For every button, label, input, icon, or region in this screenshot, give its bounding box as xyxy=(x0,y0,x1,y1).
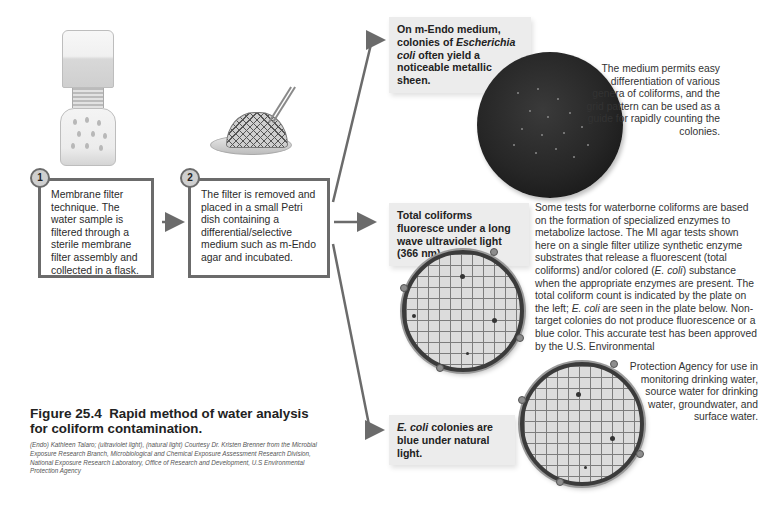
figure-page: Membrane filter technique. The water sam… xyxy=(0,0,762,512)
mi-agar-description: Some tests for waterborne coliforms are … xyxy=(535,202,757,353)
step-1-text: Membrane filter technique. The water sam… xyxy=(51,189,139,276)
natural-light-callout: E. coli colonies are blue under natural … xyxy=(389,415,515,465)
endo-description: The medium permits easy differentiation … xyxy=(580,63,720,139)
arrow-to-endo xyxy=(333,40,381,202)
uv-light-plate xyxy=(402,250,524,372)
figure-credit: (Endo) Kathleen Talaro; (ultraviolet lig… xyxy=(30,441,330,476)
arrow-to-natural xyxy=(333,244,380,430)
natural-light-plate xyxy=(520,362,644,486)
step-2-text: The filter is removed and placed in a sm… xyxy=(201,189,316,263)
step-2-badge: 2 xyxy=(180,168,200,188)
figure-title: Figure 25.4 Rapid method of water analys… xyxy=(30,406,330,436)
collection-flask xyxy=(60,108,116,166)
step-1-badge: 1 xyxy=(30,168,50,188)
step-1-box: Membrane filter technique. The water sam… xyxy=(38,178,154,278)
filter-funnel xyxy=(62,30,114,88)
step-2-box: The filter is removed and placed in a sm… xyxy=(188,178,330,278)
filter-threaded-neck xyxy=(72,88,104,108)
